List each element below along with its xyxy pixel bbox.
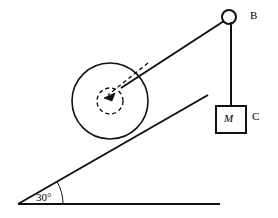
block-mass-label: M — [224, 113, 233, 124]
pulley-circle-icon — [222, 10, 236, 24]
pulley-label: B — [250, 10, 257, 21]
wheel-circle-icon — [72, 63, 148, 139]
angle-arc-icon — [57, 182, 63, 205]
diagram-canvas — [0, 0, 278, 218]
physics-diagram: B M C 30° — [0, 0, 278, 218]
dashed-hub-circle-icon — [97, 88, 123, 114]
incline-angle-label: 30° — [36, 192, 51, 203]
incline-line — [18, 95, 208, 204]
block-label: C — [252, 111, 259, 122]
cord-upper-segment — [121, 21, 224, 88]
